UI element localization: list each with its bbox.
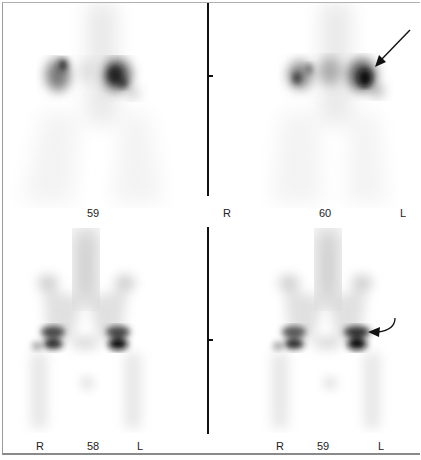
left-side-marker-top: L <box>400 207 406 219</box>
scan-panel-top-left <box>3 3 206 208</box>
scan-panel-bottom-left <box>3 228 206 433</box>
scan-panel-bottom-right <box>212 228 419 433</box>
pelvis-scan-image <box>212 228 419 433</box>
frame-number-bottom-right: 59 <box>317 440 329 452</box>
panel-divider-bottom <box>207 227 209 434</box>
frame-number-top-left: 59 <box>87 207 99 219</box>
right-side-marker-bottom-left: R <box>36 440 44 452</box>
pelvis-scan-image <box>3 228 206 433</box>
right-side-marker-top: R <box>223 207 231 219</box>
frame-number-bottom-left: 58 <box>87 440 99 452</box>
curved-arrow-icon <box>368 318 395 337</box>
panel-divider-top <box>207 3 209 196</box>
straight-arrow-icon <box>375 30 410 67</box>
kidney-scan-image <box>212 3 419 208</box>
left-side-marker-bottom-right: L <box>378 440 384 452</box>
left-side-marker-bottom-left: L <box>137 440 143 452</box>
kidney-scan-image <box>3 3 206 208</box>
scan-panel-top-right <box>212 3 419 208</box>
frame-number-top-right: 60 <box>319 207 331 219</box>
divider-tick-top <box>207 75 213 77</box>
right-side-marker-bottom-right: R <box>276 440 284 452</box>
divider-tick-bottom <box>207 339 213 341</box>
